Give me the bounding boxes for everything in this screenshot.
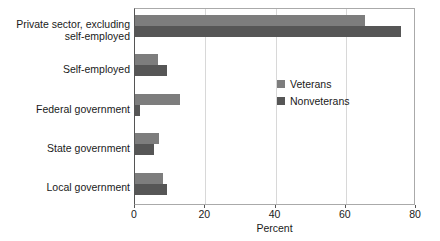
category-label-line: Private sector, excluding — [2, 18, 130, 30]
legend-label-nonveterans: Nonveterans — [290, 95, 350, 107]
x-tick-label: 20 — [184, 208, 224, 220]
legend-label-veterans: Veterans — [290, 78, 331, 90]
x-tick-label: 40 — [255, 208, 295, 220]
legend-entry-nonveterans: Nonveterans — [277, 92, 350, 109]
category-axis-labels: Private sector, excludingself-employedSe… — [0, 8, 130, 205]
category-label: Self-employed — [2, 63, 130, 75]
category-label: Local government — [2, 181, 130, 193]
x-tick-label: 0 — [114, 208, 154, 220]
bar-group — [135, 92, 416, 129]
category-label-line: Federal government — [2, 103, 130, 115]
legend-entry-veterans: Veterans — [277, 75, 350, 92]
plot-area — [134, 8, 415, 205]
bar-nonveterans — [135, 105, 140, 116]
category-label-line: Local government — [2, 181, 130, 193]
bar-group — [135, 52, 416, 89]
category-label: Private sector, excludingself-employed — [2, 18, 130, 42]
bar-group — [135, 131, 416, 168]
x-tick-label: 80 — [395, 208, 435, 220]
legend: Veterans Nonveterans — [277, 75, 350, 109]
bar-nonveterans — [135, 144, 154, 155]
category-label-line: Self-employed — [2, 63, 130, 75]
bar-nonveterans — [135, 65, 167, 76]
bar-chart: Private sector, excludingself-employedSe… — [0, 0, 440, 241]
bar-veterans — [135, 173, 163, 184]
x-axis-title: Percent — [134, 222, 415, 234]
bar-veterans — [135, 94, 180, 105]
bar-group — [135, 13, 416, 50]
bar-veterans — [135, 133, 159, 144]
bar-nonveterans — [135, 184, 167, 195]
x-tick-label: 60 — [325, 208, 365, 220]
bar-group — [135, 171, 416, 208]
category-label-line: State government — [2, 142, 130, 154]
bar-veterans — [135, 15, 365, 26]
legend-swatch-veterans — [277, 80, 285, 88]
bar-nonveterans — [135, 26, 401, 37]
legend-swatch-nonveterans — [277, 97, 285, 105]
bar-veterans — [135, 54, 158, 65]
category-label: State government — [2, 142, 130, 154]
category-label: Federal government — [2, 103, 130, 115]
category-label-line: self-employed — [2, 30, 130, 42]
